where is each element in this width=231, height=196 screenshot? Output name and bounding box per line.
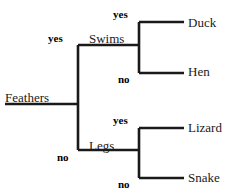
decision-tree-diagram: Feathers Swims Legs Duck Hen Lizard Snak…: [0, 0, 231, 196]
edge-label-feathers-no: no: [57, 152, 69, 163]
edge-label-feathers-yes: yes: [48, 33, 63, 44]
edge-label-swims-yes: yes: [113, 9, 128, 20]
leaf-duck: Duck: [188, 16, 216, 29]
leaf-lizard: Lizard: [188, 121, 222, 134]
node-legs: Legs: [89, 139, 114, 152]
edge-label-swims-no: no: [118, 74, 130, 85]
leaf-hen: Hen: [188, 65, 210, 78]
edge-label-legs-yes: yes: [113, 115, 128, 126]
node-swims: Swims: [89, 32, 124, 45]
leaf-snake: Snake: [188, 171, 220, 184]
edge-label-legs-no: no: [118, 179, 130, 190]
node-feathers: Feathers: [5, 91, 49, 104]
